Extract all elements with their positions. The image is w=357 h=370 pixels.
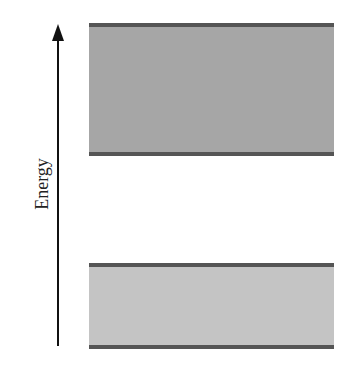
upper-energy-band bbox=[89, 23, 334, 156]
energy-axis-arrow bbox=[57, 38, 59, 346]
lower-energy-band bbox=[89, 263, 334, 349]
energy-axis-label: Energy bbox=[32, 158, 53, 210]
energy-band-diagram: Energy bbox=[0, 0, 357, 370]
